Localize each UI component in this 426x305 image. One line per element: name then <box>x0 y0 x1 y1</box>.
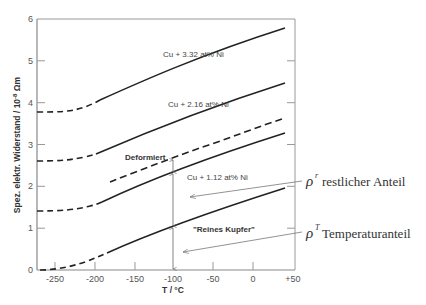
svg-text:-50: -50 <box>206 274 219 284</box>
svg-text:ρ: ρ <box>305 225 313 241</box>
label-cu-3-32-ni: Cu + 3.32 at% Ni <box>163 50 224 59</box>
annotation-rho-r: ρ r restlicher Anteil <box>305 171 406 189</box>
label-reines-kupfer: "Reines Kupfer" <box>193 225 255 234</box>
annotation-rho-t: ρ T Temperaturanteil <box>305 223 411 241</box>
svg-text:1: 1 <box>28 223 33 233</box>
y-ticks <box>37 61 295 228</box>
svg-text:-200: -200 <box>86 274 104 284</box>
svg-text:2: 2 <box>28 181 33 191</box>
svg-text:0: 0 <box>250 274 255 284</box>
svg-text:3: 3 <box>28 140 33 150</box>
x-axis-title: T / °C <box>162 285 184 295</box>
y-tick-labels: 0 1 2 3 4 5 6 <box>28 14 33 275</box>
svg-text:r: r <box>315 171 319 180</box>
x-ticks <box>55 262 253 270</box>
svg-text:6: 6 <box>28 14 33 24</box>
label-cu-1-12-ni: Cu + 1.12 at% Ni <box>187 173 248 182</box>
svg-text:T: T <box>315 223 320 232</box>
svg-text:ρ: ρ <box>305 173 313 189</box>
y-axis-title: Spez. elektr. Widerstand / 10-8 Ωm <box>12 76 22 213</box>
x-tick-labels: -250 -200 -150 -100 -50 0 +50 <box>46 274 301 284</box>
svg-text:Temperaturanteil: Temperaturanteil <box>322 226 411 241</box>
series-cu-3-32-ni <box>37 28 285 112</box>
svg-text:0: 0 <box>28 265 33 275</box>
svg-text:4: 4 <box>28 98 33 108</box>
svg-text:restlicher Anteil: restlicher Anteil <box>322 174 406 189</box>
svg-text:-100: -100 <box>164 274 182 284</box>
label-cu-2-16-ni: Cu + 2.16 at% Ni <box>168 100 229 109</box>
label-deformiert: Deformiert <box>125 153 166 162</box>
svg-text:5: 5 <box>28 56 33 66</box>
svg-text:-150: -150 <box>126 274 144 284</box>
series-cu-2-16-ni <box>37 83 285 161</box>
resistivity-chart: 0 1 2 3 4 5 6 -250 -200 -150 -100 -50 0 … <box>0 0 426 305</box>
svg-text:+50: +50 <box>285 274 300 284</box>
svg-text:-250: -250 <box>46 274 64 284</box>
